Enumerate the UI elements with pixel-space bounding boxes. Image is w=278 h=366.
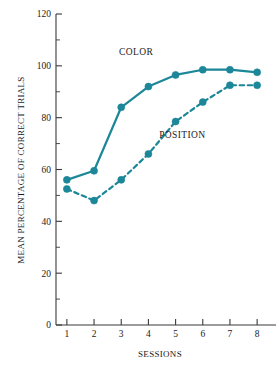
x-axis-tick-label: 8: [255, 329, 260, 339]
data-point-position-6: [199, 99, 206, 106]
x-axis-tick-label: 6: [200, 329, 205, 339]
y-axis-tick-label: 100: [37, 61, 52, 71]
data-point-position-7: [226, 82, 233, 89]
data-point-color-6: [199, 66, 206, 73]
series-label-color: COLOR: [119, 47, 153, 57]
chart-container: 020406080100120 12345678 COLORPOSITION M…: [0, 0, 278, 366]
data-point-color-2: [91, 167, 98, 174]
x-axis-tick-label: 1: [64, 329, 69, 339]
data-point-color-7: [226, 66, 233, 73]
line-chart: 020406080100120 12345678 COLORPOSITION M…: [0, 0, 278, 366]
y-axis-tick-label: 20: [42, 269, 52, 279]
x-axis-tick-label: 3: [119, 329, 124, 339]
y-axis-title: MEAN PERCENTAGE OF CORRECT TRIALS: [16, 76, 26, 263]
x-axis-tick-label: 4: [146, 329, 151, 339]
data-point-position-1: [63, 185, 70, 192]
x-axis-tick-label: 7: [228, 329, 233, 339]
data-point-color-8: [254, 69, 261, 76]
data-point-color-1: [63, 176, 70, 183]
y-axis-tick-label: 0: [46, 320, 51, 330]
data-point-position-4: [145, 150, 152, 157]
data-point-position-8: [254, 82, 261, 89]
y-axis-tick-label: 40: [42, 217, 52, 227]
x-axis-title: SESSIONS: [138, 349, 182, 359]
series-label-position: POSITION: [159, 130, 205, 140]
data-point-position-2: [91, 197, 98, 204]
data-point-color-4: [145, 83, 152, 90]
data-point-position-3: [118, 176, 125, 183]
y-axis-tick-label: 60: [42, 165, 52, 175]
x-axis-tick-label: 5: [173, 329, 178, 339]
data-point-position-5: [172, 118, 179, 125]
data-point-color-3: [118, 104, 125, 111]
y-axis-tick-label: 80: [42, 113, 52, 123]
data-point-color-5: [172, 71, 179, 78]
y-axis-tick-label: 120: [37, 9, 52, 19]
x-axis-tick-label: 2: [92, 329, 97, 339]
